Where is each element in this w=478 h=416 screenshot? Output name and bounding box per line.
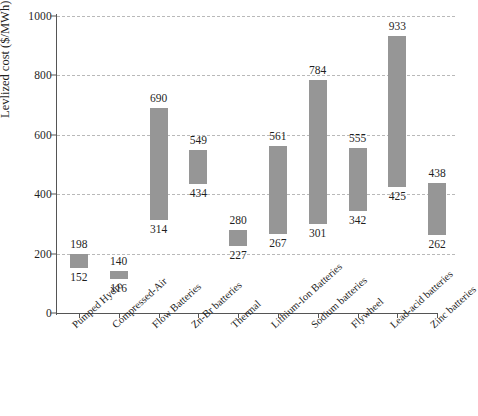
y-tick-mark-1000 [50,16,56,17]
plot-area: 1981521401166903145494342802275612677843… [57,16,455,313]
value-label-high-9: 438 [428,167,445,179]
value-label-low-8: 425 [389,190,406,202]
y-tick-mark-800 [50,75,56,76]
bar-flow-batteries [150,108,168,220]
value-label-low-0: 152 [70,271,87,283]
value-label-low-4: 227 [229,249,246,261]
y-tick-label-1000: 1000 [28,10,52,22]
value-label-low-2: 314 [150,223,167,235]
bar-thermal [229,230,247,246]
value-label-high-2: 690 [150,92,167,104]
value-label-high-5: 561 [269,130,286,142]
bar-flywheel [349,148,367,211]
value-label-low-6: 301 [309,227,326,239]
value-label-low-9: 262 [428,238,445,250]
value-label-high-7: 555 [349,132,366,144]
bar-sodium-batteries [309,80,327,223]
value-label-high-4: 280 [229,214,246,226]
bar-lithium-ion-batteries [269,146,287,233]
y-axis-ticks: 02004006008001000 [0,0,52,416]
y-tick-mark-600 [50,134,56,135]
value-label-high-8: 933 [389,20,406,32]
bar-zn-br-batteries [189,150,207,184]
value-label-high-3: 549 [190,134,207,146]
value-label-high-0: 198 [70,238,87,250]
bar-compressed-air [110,271,128,278]
value-label-high-6: 784 [309,64,326,76]
value-label-low-7: 342 [349,214,366,226]
y-tick-mark-0 [50,313,56,314]
gridline-1000 [57,16,455,17]
value-label-low-5: 267 [269,237,286,249]
bar-lead-acid-batteries [388,36,406,187]
value-label-low-3: 434 [190,187,207,199]
bar-pumped-hydro [70,254,88,268]
y-tick-mark-400 [50,194,56,195]
bar-zinc-batteries [428,183,446,235]
y-tick-mark-200 [50,253,56,254]
value-label-high-1: 140 [110,255,127,267]
